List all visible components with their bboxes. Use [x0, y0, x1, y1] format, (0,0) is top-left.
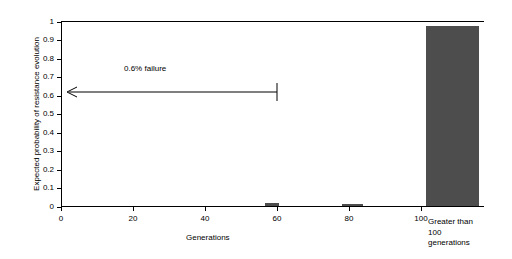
x-tick-label-100: 100	[414, 213, 427, 224]
y-tick-label-7: 0.7	[32, 71, 54, 82]
chart-container: Expected probability of resistance evolu…	[0, 0, 512, 259]
bar-gen-79	[342, 204, 354, 207]
plot-area: 0 0.1 0.2 0.3 0.4 0.5 0.6 0.7	[61, 21, 484, 207]
outlier-label-line3: generations	[428, 238, 506, 249]
bar-greater-than-100	[426, 26, 479, 206]
outlier-label-line2: 100	[428, 228, 506, 239]
y-tick-label-9: 0.9	[32, 34, 54, 45]
y-tick-label-5: 0.5	[32, 108, 54, 119]
y-tick-label-0: 0	[32, 201, 54, 212]
x-tick-20	[133, 207, 134, 211]
x-tick-60	[277, 207, 278, 211]
y-tick-label-8: 0.8	[32, 53, 54, 64]
bar-gen-57	[265, 203, 279, 206]
x-tick-label-80: 80	[345, 213, 354, 224]
x-tick-label-60: 60	[273, 213, 282, 224]
x-tick-label-40: 40	[201, 213, 210, 224]
y-tick-label-2: 0.2	[32, 164, 54, 175]
x-tick-100	[421, 207, 422, 211]
x-tick-0	[61, 207, 62, 211]
x-tick-label-20: 20	[129, 213, 138, 224]
y-tick-label-6: 0.6	[32, 90, 54, 101]
annotation-label: 0.6% failure	[124, 63, 166, 74]
y-tick-label-4: 0.4	[32, 127, 54, 138]
x-axis-title: Generations	[186, 232, 230, 243]
annotation-arrow	[61, 21, 484, 207]
outlier-category-label: Greater than 100 generations	[428, 217, 506, 249]
x-tick-label-0: 0	[59, 213, 63, 224]
y-tick-label-1: 0.1	[32, 182, 54, 193]
outlier-label-line1: Greater than	[428, 217, 506, 228]
y-tick-label-10: 1	[32, 16, 54, 27]
x-tick-40	[205, 207, 206, 211]
top-border-line	[61, 21, 484, 22]
x-tick-80	[349, 207, 350, 211]
bar-gen-84	[354, 204, 363, 206]
y-tick-label-3: 0.3	[32, 145, 54, 156]
